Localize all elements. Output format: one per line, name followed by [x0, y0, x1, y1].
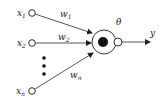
ellipsis-dot-3	[42, 72, 46, 76]
label-xn: xn	[16, 86, 25, 97]
label-x1: x1	[17, 8, 26, 19]
label-wn: wn	[70, 70, 82, 81]
label-w2: w2	[58, 32, 70, 43]
neuron-core	[98, 37, 108, 47]
input-node-x1	[29, 10, 36, 17]
input-node-x2	[29, 40, 36, 47]
input-node-xn	[29, 88, 36, 95]
label-w1: w1	[60, 9, 72, 20]
ellipsis-dot-1	[42, 56, 46, 60]
diagram-svg: x1 x2 xn w1 w2 wn θ y	[0, 0, 166, 102]
label-y: y	[149, 28, 156, 38]
perceptron-diagram: x1 x2 xn w1 w2 wn θ y	[0, 0, 166, 102]
label-x2: x2	[17, 38, 26, 49]
output-node	[114, 38, 122, 46]
label-theta: θ	[116, 17, 122, 27]
ellipsis-dot-2	[42, 64, 46, 68]
